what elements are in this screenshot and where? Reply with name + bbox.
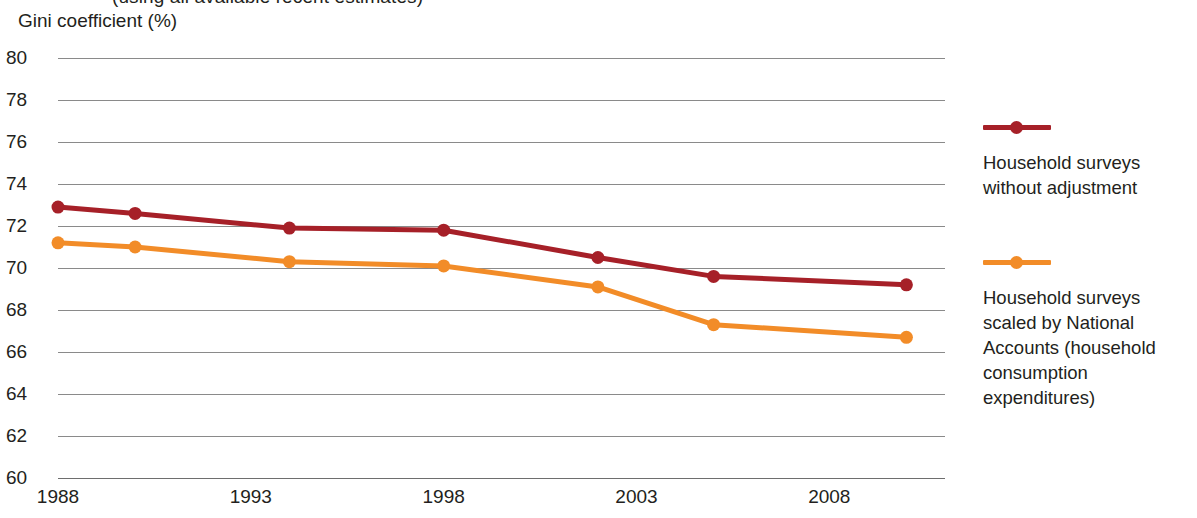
data-point-marker [129, 241, 142, 254]
y-axis-tick-label: 72 [6, 215, 50, 237]
y-axis-tick-label: 70 [6, 257, 50, 279]
y-axis-tick-label: 78 [6, 89, 50, 111]
data-point-marker [900, 278, 913, 291]
y-axis-tick-label: 68 [6, 299, 50, 321]
data-point-marker [437, 224, 450, 237]
x-axis-tick-label: 2003 [615, 486, 657, 508]
y-axis-caption: Gini coefficient (%) [18, 10, 177, 32]
data-point-marker [129, 207, 142, 220]
y-axis-tick-label: 74 [6, 173, 50, 195]
series-line [58, 243, 906, 337]
data-point-marker [283, 255, 296, 268]
data-point-marker [707, 270, 720, 283]
x-axis-tick-label: 1988 [37, 486, 79, 508]
y-axis-tick-label: 76 [6, 131, 50, 153]
data-point-marker [52, 236, 65, 249]
x-axis-tick-label: 1993 [230, 486, 272, 508]
legend-swatch-household-surveys [983, 118, 1051, 136]
x-axis-line [58, 478, 945, 479]
x-axis-tick-label: 2008 [808, 486, 850, 508]
legend-label-national-accounts: Household surveys scaled by National Acc… [983, 285, 1195, 410]
chart-root: (using all available recent estimates) G… [0, 0, 1197, 518]
legend-entry-household-surveys: Household surveys without adjustment [983, 118, 1195, 200]
y-axis-tick-label: 62 [6, 425, 50, 447]
series-layer [58, 58, 945, 478]
data-point-marker [283, 222, 296, 235]
data-point-marker [591, 280, 604, 293]
y-axis-tick-label: 66 [6, 341, 50, 363]
chart-title-clipped: (using all available recent estimates) [112, 0, 423, 8]
y-axis-tick-label: 64 [6, 383, 50, 405]
legend-swatch-national-accounts [983, 253, 1051, 271]
legend-label-household-surveys: Household surveys without adjustment [983, 150, 1195, 200]
x-axis-tick-label: 1998 [423, 486, 465, 508]
data-point-marker [437, 259, 450, 272]
data-point-marker [900, 331, 913, 344]
data-point-marker [707, 318, 720, 331]
y-axis-tick-label: 80 [6, 47, 50, 69]
y-axis-tick-labels: 8078767472706866646260 [0, 58, 50, 478]
plot-area [58, 58, 945, 478]
data-point-marker [52, 201, 65, 214]
data-point-marker [591, 251, 604, 264]
legend-entry-national-accounts: Household surveys scaled by National Acc… [983, 253, 1195, 410]
